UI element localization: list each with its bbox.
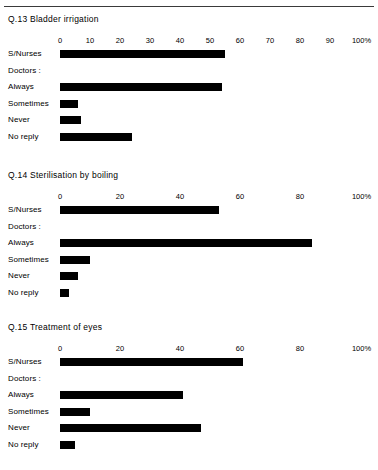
- bar-track: [60, 272, 360, 280]
- bar-track: [60, 358, 360, 366]
- x-axis-tick-label: 40: [176, 36, 184, 45]
- group-heading-label: Doctors :: [8, 374, 41, 383]
- bar-track: [60, 424, 360, 432]
- bar: [60, 100, 78, 108]
- bar-row-label: Sometimes: [8, 407, 49, 416]
- x-axis-tick-label: 60: [236, 36, 244, 45]
- bar-rows: S/NursesDoctors :AlwaysSometimesNeverNo …: [0, 47, 378, 146]
- bar-track: [60, 50, 360, 58]
- bar-rows: S/NursesDoctors :AlwaysSometimesNeverNo …: [0, 203, 378, 302]
- x-axis-tick-label: 20: [116, 192, 124, 201]
- group-heading-row: Doctors :: [0, 64, 378, 81]
- chart-title: Q.14 Sterilisation by boiling: [8, 170, 118, 180]
- bar-row-label: Never: [8, 115, 30, 124]
- figure-page: Q.13 Bladder irrigation 0102030405060708…: [0, 0, 378, 470]
- bar: [60, 408, 90, 416]
- x-axis-tick-label: 100%: [352, 36, 371, 45]
- bar-track: [60, 391, 360, 399]
- bar-row-label: Never: [8, 271, 30, 280]
- bar-row: Always: [0, 80, 378, 97]
- bar-row: Always: [0, 388, 378, 405]
- bar: [60, 441, 75, 449]
- x-axis-tick-label: 70: [266, 36, 274, 45]
- x-axis-tick-label: 80: [296, 192, 304, 201]
- x-axis-tick-label: 20: [116, 344, 124, 353]
- bar: [60, 256, 90, 264]
- bar: [60, 239, 312, 247]
- chart-title: Q.13 Bladder irrigation: [8, 14, 99, 24]
- x-axis-tick-label: 90: [326, 36, 334, 45]
- x-axis-tick-label: 80: [296, 36, 304, 45]
- bar-row: S/Nurses: [0, 355, 378, 372]
- bar-row-label: Always: [8, 390, 34, 399]
- bar-track: [60, 239, 360, 247]
- bar: [60, 358, 243, 366]
- bar: [60, 83, 222, 91]
- bar-track: [60, 100, 360, 108]
- bar-row-label: Sometimes: [8, 255, 49, 264]
- bar-track: [60, 116, 360, 124]
- group-heading-label: Doctors :: [8, 222, 41, 231]
- bar-track: [60, 206, 360, 214]
- x-axis-tick-label: 60: [236, 344, 244, 353]
- bar-row-label: No reply: [8, 440, 39, 449]
- bar: [60, 206, 219, 214]
- bar-track: [60, 83, 360, 91]
- bar-track: [60, 408, 360, 416]
- bar-row: Sometimes: [0, 253, 378, 270]
- bar-row: Never: [0, 269, 378, 286]
- bar-row: Sometimes: [0, 97, 378, 114]
- x-axis-tick-label: 10: [86, 36, 94, 45]
- chart-title: Q.15 Treatment of eyes: [8, 322, 102, 332]
- group-heading-row: Doctors :: [0, 220, 378, 237]
- x-axis-tick-label: 100%: [352, 192, 371, 201]
- bar-row-label: S/Nurses: [8, 205, 42, 214]
- bar-row-label: No reply: [8, 132, 39, 141]
- bar-row-label: No reply: [8, 288, 39, 297]
- bar-rows: S/NursesDoctors :AlwaysSometimesNeverNo …: [0, 355, 378, 454]
- x-axis-tick-label: 50: [206, 36, 214, 45]
- x-axis-tick-label: 0: [58, 36, 62, 45]
- bar-track: [60, 289, 360, 297]
- bar-row: No reply: [0, 286, 378, 303]
- bar-row: No reply: [0, 438, 378, 455]
- bar: [60, 133, 132, 141]
- bar: [60, 272, 78, 280]
- bar: [60, 116, 81, 124]
- bar-row: Sometimes: [0, 405, 378, 422]
- x-axis-tick-label: 60: [236, 192, 244, 201]
- bar-row-label: S/Nurses: [8, 49, 42, 58]
- bar: [60, 50, 225, 58]
- bar-track: [60, 441, 360, 449]
- x-axis-tick-label: 80: [296, 344, 304, 353]
- bar-row: Never: [0, 421, 378, 438]
- x-axis-tick-label: 40: [176, 344, 184, 353]
- bar-row-label: Always: [8, 238, 34, 247]
- bar-row-label: S/Nurses: [8, 357, 42, 366]
- bar-row: No reply: [0, 130, 378, 147]
- bar-row: Never: [0, 113, 378, 130]
- bar-row: S/Nurses: [0, 203, 378, 220]
- x-axis-tick-label: 0: [58, 192, 62, 201]
- bar: [60, 391, 183, 399]
- x-axis-tick-label: 40: [176, 192, 184, 201]
- x-axis-tick-label: 100%: [352, 344, 371, 353]
- x-axis-tick-label: 20: [116, 36, 124, 45]
- x-axis-tick-label: 0: [58, 344, 62, 353]
- bar-row: S/Nurses: [0, 47, 378, 64]
- bar-row-label: Never: [8, 423, 30, 432]
- bar: [60, 424, 201, 432]
- bar-row: Always: [0, 236, 378, 253]
- bar-row-label: Sometimes: [8, 99, 49, 108]
- group-heading-row: Doctors :: [0, 372, 378, 389]
- bar-track: [60, 256, 360, 264]
- x-axis-tick-label: 30: [146, 36, 154, 45]
- bar-row-label: Always: [8, 82, 34, 91]
- group-heading-label: Doctors :: [8, 66, 41, 75]
- bar: [60, 289, 69, 297]
- bar-track: [60, 133, 360, 141]
- top-divider: [4, 6, 374, 7]
